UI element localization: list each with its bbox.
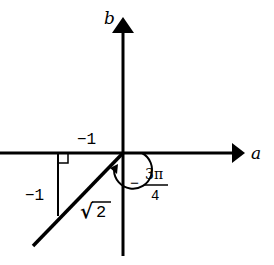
angle-denominator: 4 [151,188,159,204]
horizontal-leg-label: −1 [77,131,96,149]
b-axis-label: b [104,8,115,28]
b-axis-arrowhead [112,17,134,33]
vertical-leg-label: −1 [25,187,44,205]
hypotenuse [33,153,123,246]
hypotenuse-radical-sign: √ [80,199,94,223]
hypotenuse-value: 2 [96,203,106,222]
a-axis-arrowhead [232,143,245,163]
angle-sign: − [130,176,139,193]
angle-numerator: 3π [145,166,163,182]
a-axis-label: a [251,143,261,163]
complex-plane-diagram: a b −1 −1 √ 2 − 3π 4 [0,0,274,265]
